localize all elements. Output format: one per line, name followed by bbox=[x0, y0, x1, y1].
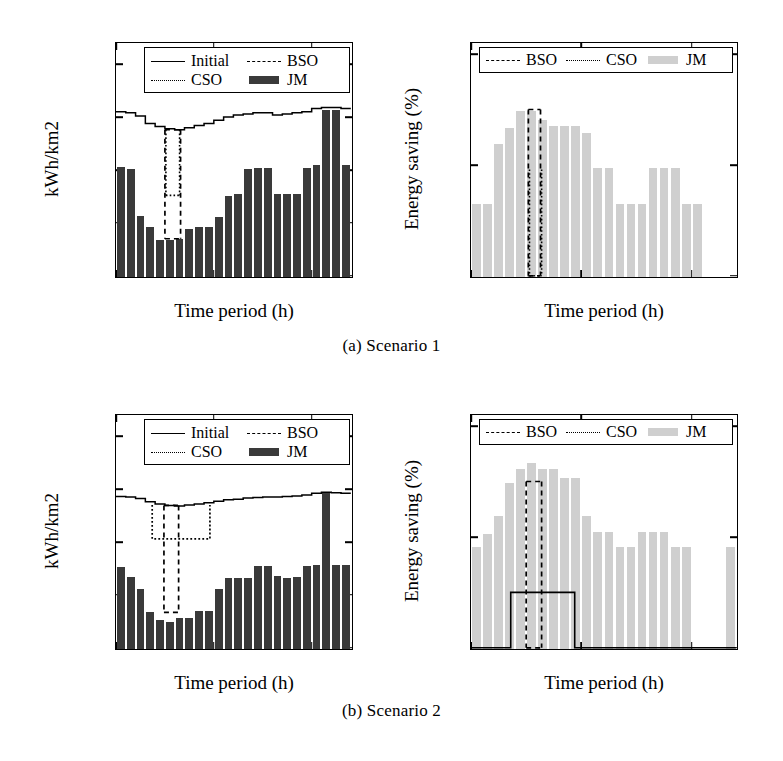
legend-swatch-dotted-line bbox=[566, 426, 600, 438]
subfigure-caption-a: (a) Scenario 1 bbox=[0, 336, 783, 356]
legend-swatch-dotted-line bbox=[151, 446, 185, 458]
y-axis-label: Energy saving (%) bbox=[401, 79, 423, 239]
legend-item-jm: JM bbox=[646, 423, 726, 441]
legend-item-bso: BSO bbox=[486, 423, 566, 441]
chart-legend: InitialBSOCSOJM bbox=[144, 419, 350, 465]
legend-bar-icon bbox=[249, 448, 279, 456]
legend-swatch-dashed-line bbox=[486, 426, 520, 438]
plot-area-s2-saving: 05010001020BSOCSOJM bbox=[470, 414, 738, 650]
chart-legend: InitialBSOCSOJM bbox=[144, 47, 350, 93]
legend-item-cso: CSO bbox=[151, 442, 247, 461]
legend-label: JM bbox=[287, 72, 307, 88]
legend-label: Initial bbox=[191, 425, 229, 441]
legend-swatch-filled-bar-light bbox=[646, 54, 680, 66]
legend-line-icon bbox=[247, 61, 281, 62]
figure-row-scenario-1: kWh/km2Time period (h)0510152001020Initi… bbox=[0, 0, 783, 380]
chart-legend: BSOCSOJM bbox=[479, 47, 733, 73]
subfigure-caption-b: (b) Scenario 2 bbox=[0, 701, 783, 721]
legend-line-icon bbox=[486, 432, 520, 433]
legend-item-cso: CSO bbox=[151, 70, 247, 89]
legend-label: JM bbox=[287, 444, 307, 460]
legend-label: CSO bbox=[606, 52, 637, 68]
legend-swatch-solid-line bbox=[151, 427, 185, 439]
legend-label: CSO bbox=[191, 444, 222, 460]
legend-item-bso: BSO bbox=[247, 423, 343, 442]
legend-label: Initial bbox=[191, 53, 229, 69]
legend-line-icon bbox=[151, 452, 185, 453]
legend-swatch-dashed-line bbox=[247, 427, 281, 439]
legend-label: CSO bbox=[606, 424, 637, 440]
chart-panel-s1-saving: Energy saving (%)Time period (h)05010001… bbox=[0, 0, 783, 340]
legend-swatch-dashed-line bbox=[247, 55, 281, 67]
legend-item-bso: BSO bbox=[247, 51, 343, 70]
figure-row-scenario-2: kWh/km2Time period (h)01020304001020Init… bbox=[0, 372, 783, 752]
legend-item-initial: Initial bbox=[151, 51, 247, 70]
legend-bar-icon bbox=[648, 428, 678, 436]
chart-legend: BSOCSOJM bbox=[479, 419, 733, 445]
legend-swatch-filled-bar-dark bbox=[247, 74, 281, 86]
plot-area-s1-saving: 05010001020BSOCSOJM bbox=[470, 42, 738, 278]
legend-bar-icon bbox=[648, 56, 678, 64]
legend-swatch-filled-bar-light bbox=[646, 426, 680, 438]
legend-swatch-dotted-line bbox=[566, 54, 600, 66]
legend-swatch-filled-bar-dark bbox=[247, 446, 281, 458]
y-axis-label: Energy saving (%) bbox=[401, 451, 423, 611]
legend-line-icon bbox=[151, 80, 185, 81]
legend-line-icon bbox=[566, 60, 600, 61]
legend-line-icon bbox=[486, 60, 520, 61]
legend-swatch-dotted-line bbox=[151, 74, 185, 86]
line-overlay bbox=[471, 415, 736, 648]
legend-label: BSO bbox=[287, 53, 318, 69]
x-axis-label: Time period (h) bbox=[410, 672, 783, 694]
legend-line-icon bbox=[151, 433, 185, 434]
legend-item-cso: CSO bbox=[566, 51, 646, 69]
legend-label: JM bbox=[686, 52, 706, 68]
legend-line-icon bbox=[151, 61, 185, 62]
legend-item-cso: CSO bbox=[566, 423, 646, 441]
legend-item-jm: JM bbox=[247, 70, 343, 89]
x-axis-label: Time period (h) bbox=[410, 300, 783, 322]
legend-label: BSO bbox=[287, 425, 318, 441]
legend-item-initial: Initial bbox=[151, 423, 247, 442]
legend-item-bso: BSO bbox=[486, 51, 566, 69]
legend-label: BSO bbox=[526, 424, 557, 440]
legend-label: JM bbox=[686, 424, 706, 440]
legend-label: CSO bbox=[191, 72, 222, 88]
chart-panel-s2-saving: Energy saving (%)Time period (h)05010001… bbox=[0, 372, 783, 712]
line-overlay bbox=[471, 43, 736, 276]
legend-item-jm: JM bbox=[247, 442, 343, 461]
legend-item-jm: JM bbox=[646, 51, 726, 69]
legend-label: BSO bbox=[526, 52, 557, 68]
legend-swatch-dashed-line bbox=[486, 54, 520, 66]
legend-bar-icon bbox=[249, 76, 279, 84]
legend-swatch-solid-line bbox=[151, 55, 185, 67]
legend-line-icon bbox=[247, 433, 281, 434]
figure-root: kWh/km2Time period (h)0510152001020Initi… bbox=[0, 0, 783, 761]
legend-line-icon bbox=[566, 432, 600, 433]
